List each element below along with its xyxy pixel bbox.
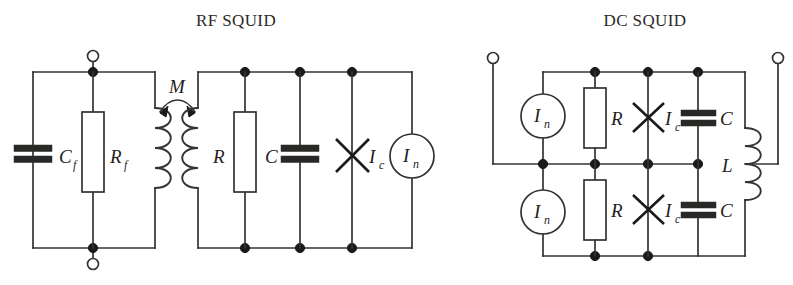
dc-lower-resistor bbox=[584, 180, 606, 240]
dc-upper-noise-current-source bbox=[521, 94, 565, 138]
rf-noise-current-source bbox=[390, 134, 434, 178]
rf-feedback-coil bbox=[155, 108, 171, 188]
rf-feedback-capacitor-sublabel: f bbox=[73, 158, 78, 172]
dc-upper-capacitor-label: C bbox=[720, 108, 733, 129]
rf-feedback-resistor-sublabel: f bbox=[124, 158, 129, 172]
rf-squid-coil bbox=[182, 108, 198, 188]
rf-squid-title: RF SQUID bbox=[196, 11, 276, 30]
junction-dot bbox=[538, 159, 547, 168]
rf-feedback-resistor-label: R bbox=[109, 146, 122, 167]
rf-tank-resistor bbox=[234, 112, 256, 192]
dc-lower-junction-sublabel: c bbox=[675, 212, 681, 226]
dc-upper-resistor-label: R bbox=[610, 108, 623, 129]
dc-squid-title: DC SQUID bbox=[603, 11, 686, 30]
dc-inductor-label: L bbox=[721, 155, 733, 176]
dc-upper-junction-sublabel: c bbox=[675, 120, 681, 134]
rf-feedback-top-terminal[interactable] bbox=[88, 51, 99, 62]
mutual-inductance-label: M bbox=[168, 76, 186, 97]
rf-feedback-resistor bbox=[82, 112, 104, 192]
rf-tank-capacitor-plate-top bbox=[281, 145, 319, 152]
rf-junction-label: I bbox=[368, 146, 377, 167]
rf-tank-resistor-label: R bbox=[212, 146, 225, 167]
dc-lower-noise-source-sublabel: n bbox=[544, 213, 550, 227]
dc-lower-capacitor-label: C bbox=[720, 200, 733, 221]
circuit-figure: RF SQUID DC SQUID C f R f M R C I c I n … bbox=[0, 0, 793, 285]
rf-noise-source-sublabel: n bbox=[413, 157, 419, 171]
rf-tank-capacitor-plate-bottom bbox=[281, 156, 319, 163]
rf-feedback-bottom-terminal[interactable] bbox=[88, 259, 99, 270]
dc-upper-resistor bbox=[584, 88, 606, 148]
rf-tank-capacitor-label: C bbox=[265, 146, 278, 167]
rf-feedback-capacitor-label: C bbox=[59, 146, 72, 167]
rf-junction-sublabel: c bbox=[379, 158, 385, 172]
dc-upper-capacitor-plate-bottom bbox=[681, 120, 716, 126]
rf-feedback-loop bbox=[14, 51, 171, 270]
dc-lower-junction-label: I bbox=[664, 200, 673, 221]
circuit-canvas: RF SQUID DC SQUID C f R f M R C I c I n … bbox=[0, 0, 793, 285]
rf-feedback-capacitor-plate-bottom bbox=[14, 156, 52, 163]
dc-lower-resistor-label: R bbox=[610, 200, 623, 221]
dc-upper-junction-label: I bbox=[664, 108, 673, 129]
dc-right-terminal[interactable] bbox=[773, 53, 784, 64]
dc-lower-capacitor-plate-bottom bbox=[681, 212, 716, 218]
dc-upper-capacitor-plate-top bbox=[681, 110, 716, 116]
dc-upper-noise-source-sublabel: n bbox=[544, 117, 550, 131]
dc-lower-noise-current-source bbox=[521, 190, 565, 234]
dc-lower-capacitor-plate-top bbox=[681, 202, 716, 208]
dc-left-terminal[interactable] bbox=[488, 53, 499, 64]
dc-squid-circuit bbox=[488, 53, 784, 261]
rf-feedback-capacitor-plate-top bbox=[14, 145, 52, 152]
